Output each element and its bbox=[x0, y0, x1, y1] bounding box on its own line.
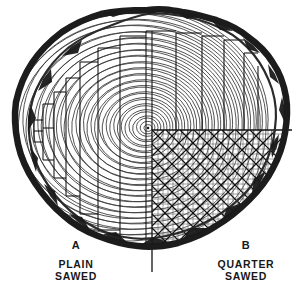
log-cross-section-illustration bbox=[0, 0, 301, 301]
pith-center-mark bbox=[147, 127, 150, 130]
log-sawing-diagram: A PLAIN SAWED B QUARTER SAWED bbox=[0, 0, 301, 301]
